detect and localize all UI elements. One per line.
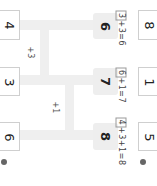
right-box-1: 8 [138,10,157,40]
result-box-1: 6 [93,13,118,39]
left-box-2: 3 [0,67,20,96]
right-box-3: 5 [138,122,157,151]
result-box-2: 7 [93,68,118,95]
problem-marker-icon [1,159,7,165]
equation-rest: +3=6 [117,21,126,47]
track-row-3 [20,130,95,140]
equation-1: 3+3=6 [117,4,126,54]
result-value: 7 [99,72,112,92]
track-row-2 [20,75,95,85]
right-box-value: 8 [143,16,156,36]
equation-3: 4+3+1=8 [117,107,126,177]
equation-2: 6+1=7 [117,61,126,111]
left-box-1: 4 [0,10,20,40]
result-value: 6 [99,17,112,37]
equation-rest: +1=7 [117,78,126,104]
right-box-value: 5 [143,128,156,148]
track-connector-1 [40,20,49,85]
left-box-3: 6 [0,122,20,151]
equation-boxed-term: 4 [116,118,127,128]
step-label-1: +3 [26,46,35,60]
problem-marker-icon [140,159,146,165]
result-box-3: 8 [93,123,118,150]
result-value: 8 [99,127,112,147]
left-box-value: 4 [3,16,16,36]
equation-rest: +3+1=8 [117,127,126,165]
right-box-value: 1 [143,73,156,93]
left-box-value: 3 [3,73,16,93]
step-label-2: +1 [51,101,60,115]
track-connector-2 [65,75,74,140]
left-box-value: 6 [3,128,16,148]
right-box-2: 1 [138,67,157,96]
equation-boxed-term: 6 [116,68,127,78]
equation-boxed-term: 3 [116,11,127,21]
track-row-1 [20,20,95,30]
